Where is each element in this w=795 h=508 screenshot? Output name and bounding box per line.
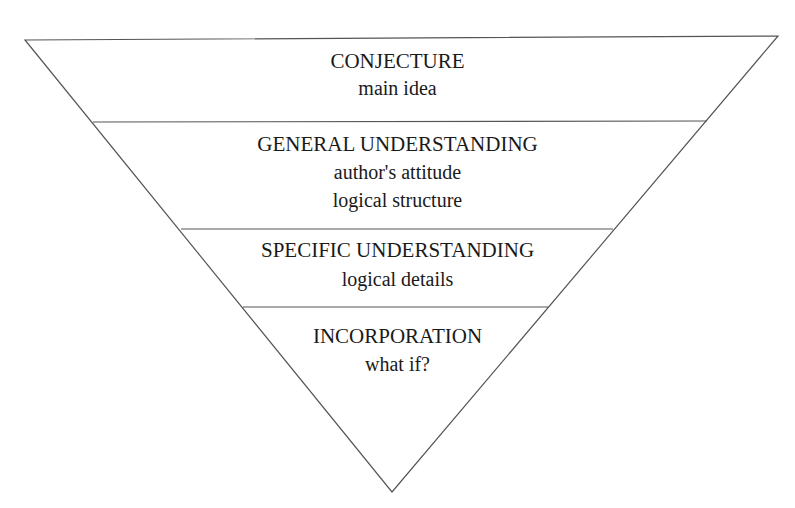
level-3-title: SPECIFIC UNDERSTANDING <box>0 237 795 263</box>
level-divider-1 <box>93 121 707 122</box>
level-3-item: logical details <box>0 266 795 292</box>
level-1-item: main idea <box>0 75 795 101</box>
level-2-item: author's attitude <box>0 159 795 185</box>
level-4-item: what if? <box>0 351 795 377</box>
level-2-title: GENERAL UNDERSTANDING <box>0 131 795 157</box>
pyramid-outline <box>25 36 778 492</box>
level-4-title: INCORPORATION <box>0 323 795 349</box>
level-1-title: CONJECTURE <box>0 48 795 74</box>
level-2-item: logical structure <box>0 187 795 213</box>
